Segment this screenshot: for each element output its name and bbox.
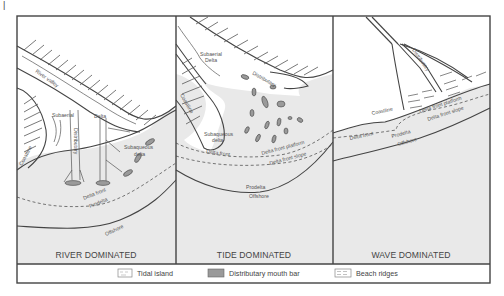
label-subaerial: Subaerial <box>52 112 74 118</box>
label-distributary: Distributary <box>73 128 79 155</box>
mouth-bar-swatch-icon <box>208 269 224 277</box>
label-distributary: Distributary <box>411 47 431 72</box>
label-subaerial-delta: Delta <box>205 57 217 63</box>
legend-label: Tidal island <box>137 269 173 278</box>
mouth-bar <box>96 181 110 186</box>
legend-label: Beach ridges <box>356 269 398 278</box>
tidal-island-swatch-icon <box>118 269 132 277</box>
panel-title-river: RIVER DOMINATED <box>55 250 136 260</box>
label-prodelta: Prodelta <box>246 184 265 190</box>
legend-item-tidal-island: Tidal island <box>118 269 173 278</box>
panel-title-wave: WAVE DOMINATED <box>371 250 450 260</box>
mouth-bar <box>65 181 81 186</box>
panel-wave-dominated: Distributary Coastline Delta front platf… <box>333 17 490 264</box>
label-subaqueous-delta: delta <box>134 151 145 157</box>
panel-tide-dominated: Subaerial Delta Distributary Coastline S… <box>176 17 333 264</box>
legend: Tidal island Distributary mouth bar Beac… <box>118 269 398 278</box>
panel-title-tide: TIDE DOMINATED <box>217 250 291 260</box>
label-coastline: Coastline <box>371 106 394 116</box>
legend-label: Distributary mouth bar <box>229 269 300 278</box>
label-delta: Delta <box>94 113 106 119</box>
delta-classification-diagram: River valley Subaerial Delta Distributar… <box>0 0 504 296</box>
hatch-upland <box>24 40 156 152</box>
label-offshore: Offshore <box>249 193 269 199</box>
legend-item-beach-ridges: Beach ridges <box>335 269 398 278</box>
legend-item-mouth-bar: Distributary mouth bar <box>208 269 300 278</box>
label-subaqueous: Subaqueous <box>124 144 154 150</box>
panel-river-dominated: River valley Subaerial Delta Distributar… <box>17 40 176 264</box>
label-subaqueous-delta: delta <box>212 137 223 143</box>
beach-ridges-swatch-icon <box>335 269 351 277</box>
